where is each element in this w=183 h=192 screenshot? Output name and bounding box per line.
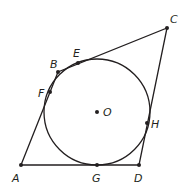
label-A: A bbox=[11, 172, 20, 185]
point-E bbox=[76, 61, 80, 65]
label-B: B bbox=[50, 58, 58, 71]
label-O: O bbox=[103, 106, 112, 119]
label-D: D bbox=[134, 172, 142, 185]
diagram-svg: ABCDEFGHO bbox=[0, 0, 183, 192]
point-D bbox=[137, 163, 141, 167]
label-C: C bbox=[170, 13, 178, 26]
label-H: H bbox=[151, 118, 159, 131]
label-G: G bbox=[92, 172, 101, 185]
point-C bbox=[165, 26, 169, 30]
label-E: E bbox=[73, 47, 80, 60]
point-F bbox=[48, 90, 52, 94]
geometry-diagram: ABCDEFGHO bbox=[0, 0, 183, 192]
point-O bbox=[95, 110, 99, 114]
point-H bbox=[145, 121, 149, 125]
label-F: F bbox=[38, 87, 45, 100]
point-A bbox=[19, 163, 23, 167]
point-G bbox=[95, 163, 99, 167]
